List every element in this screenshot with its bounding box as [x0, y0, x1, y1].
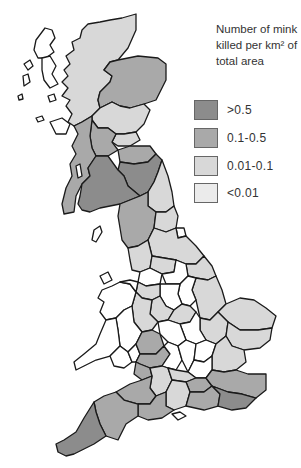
legend-title-line-2: killed per km² of: [216, 37, 301, 53]
legend-item-medium: 0.1-0.5: [194, 128, 266, 148]
island-isle-of-man: [92, 226, 102, 242]
legend-title: Number of mink killed per km² of total a…: [216, 21, 301, 69]
legend-label-very-low: <0.01: [227, 186, 259, 200]
legend-swatch-medium: [194, 128, 218, 148]
legend-swatch-low: [194, 156, 218, 176]
legend-item-high: >0.5: [194, 100, 252, 120]
legend-label-low: 0.01-0.1: [227, 159, 273, 173]
legend-item-low: 0.01-0.1: [194, 156, 273, 176]
legend-swatch-very-low: [194, 183, 218, 203]
legend-title-line-1: Number of mink: [216, 21, 301, 37]
legend-swatch-high: [194, 100, 218, 120]
legend-label-medium: 0.1-0.5: [227, 131, 266, 145]
legend-label-high: >0.5: [227, 103, 252, 117]
region-anglesey: [100, 272, 112, 284]
uk-choropleth-map: [0, 0, 301, 468]
legend-title-line-3: total area: [216, 53, 301, 69]
legend-item-very-low: <0.01: [194, 183, 259, 203]
island-isle-of-wight: [172, 412, 186, 420]
